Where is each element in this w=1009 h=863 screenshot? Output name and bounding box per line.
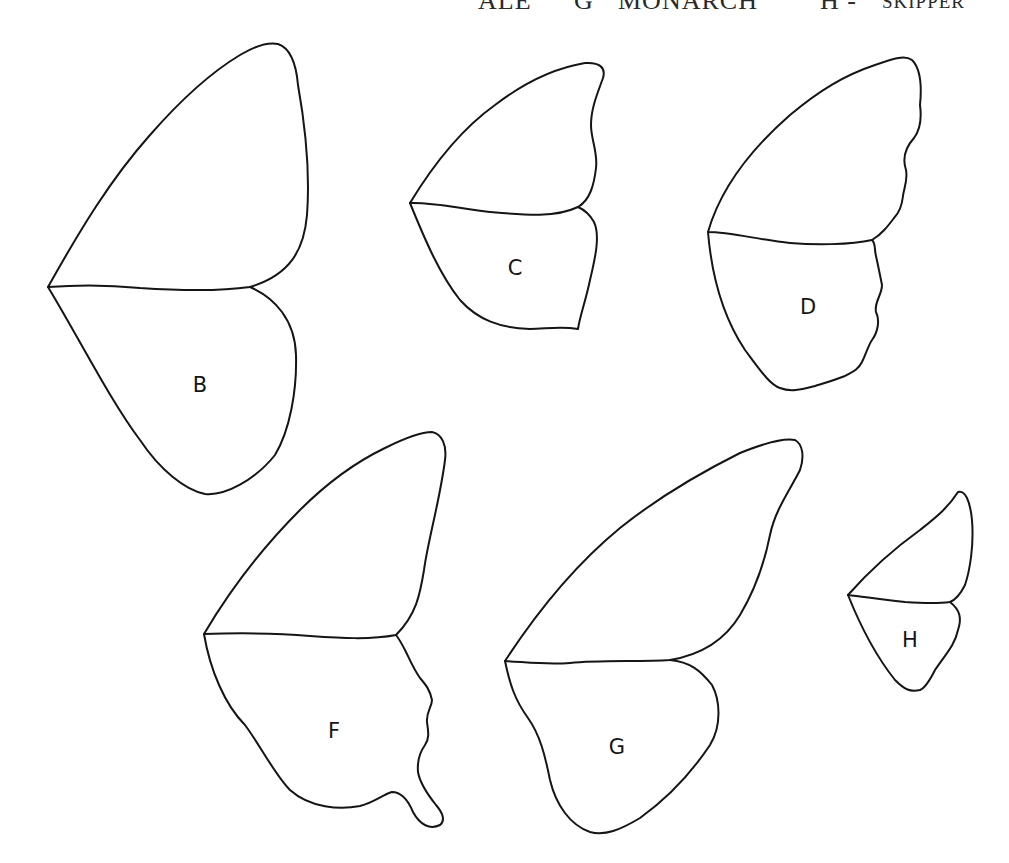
wing-f-hindwing <box>204 634 443 827</box>
wing-shapes-diagram: ALE G MONARCH H - SKIPPER <box>0 0 1009 863</box>
wing-label-d: D <box>800 295 816 319</box>
wing-f-forewing <box>204 432 445 638</box>
wings-drawing <box>0 0 1009 863</box>
wing-label-b: B <box>193 373 207 397</box>
wing-label-h: H <box>902 628 918 652</box>
wing-c <box>410 63 604 329</box>
wing-f <box>204 432 445 827</box>
wing-d-forewing <box>708 58 921 245</box>
wing-b-hindwing <box>48 287 296 494</box>
wing-h <box>848 492 973 691</box>
wing-h-forewing <box>848 492 973 603</box>
wing-b-forewing <box>48 43 308 290</box>
wing-label-c: C <box>508 256 523 280</box>
wing-c-hindwing <box>410 203 597 329</box>
wing-label-f: F <box>328 719 340 743</box>
wing-g <box>505 440 802 834</box>
wing-g-forewing <box>505 440 802 664</box>
wing-label-g: G <box>609 735 625 759</box>
wing-d <box>708 58 921 391</box>
wing-c-forewing <box>410 63 604 215</box>
wing-d-hindwing <box>708 232 882 390</box>
wing-b <box>48 43 308 494</box>
